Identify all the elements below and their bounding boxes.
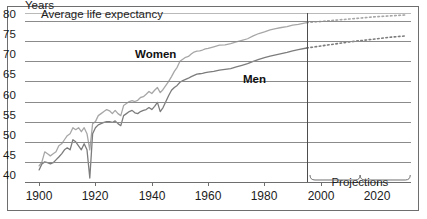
x-tick-label-1920: 1920 — [82, 189, 109, 203]
gridline-y-60 — [25, 102, 411, 103]
y-tick-label-50: 50 — [3, 130, 27, 141]
x-tick-label-1980: 1980 — [251, 189, 278, 203]
series-label-men: Men — [243, 73, 266, 85]
x-tick-label-1960: 1960 — [195, 189, 222, 203]
x-tick-mark-1920 — [95, 182, 96, 186]
x-tick-mark-1980 — [264, 182, 265, 186]
gridline-y-75 — [25, 41, 411, 42]
brace-path — [310, 175, 410, 180]
series-label-women: Women — [135, 48, 176, 60]
y-tick-label-40: 40 — [3, 170, 27, 181]
gridline-y-70 — [25, 61, 411, 62]
x-tick-label-1900: 1900 — [26, 189, 53, 203]
y-tick-label-60: 60 — [3, 90, 27, 101]
y-tick-label-65: 65 — [3, 69, 27, 80]
y-tick-label-70: 70 — [3, 49, 27, 60]
x-tick-label-2000: 2000 — [308, 189, 335, 203]
gridline-y-55 — [25, 122, 411, 123]
series-lines — [25, 13, 411, 182]
chart-subtitle: Average life expectancy — [41, 9, 163, 20]
x-tick-label-1940: 1940 — [139, 189, 166, 203]
line-men — [39, 48, 307, 178]
plot-area: 4045505560657075801900192019401960198020… — [25, 13, 411, 182]
x-tick-mark-1960 — [208, 182, 209, 186]
y-tick-label-80: 80 — [3, 9, 27, 20]
projection-divider — [307, 13, 308, 182]
gridline-y-80 — [25, 21, 411, 22]
projections-brace — [309, 174, 411, 183]
x-tick-label-2020: 2020 — [364, 189, 391, 203]
gridline-y-65 — [25, 81, 411, 82]
y-tick-label-75: 75 — [3, 29, 27, 40]
y-tick-label-55: 55 — [3, 110, 27, 121]
gridline-y-50 — [25, 142, 411, 143]
y-tick-label-45: 45 — [3, 150, 27, 161]
line-women — [39, 23, 307, 166]
chart-stage: 4045505560657075801900192019401960198020… — [0, 0, 427, 219]
x-tick-mark-1940 — [152, 182, 153, 186]
x-tick-mark-1900 — [39, 182, 40, 186]
gridline-y-45 — [25, 162, 411, 163]
